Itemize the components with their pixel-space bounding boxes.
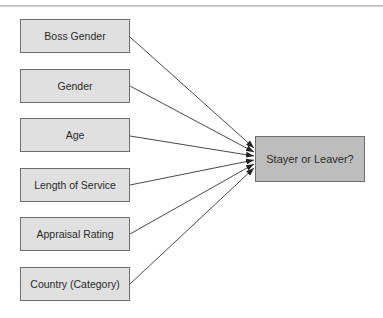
node-age: Age <box>20 118 130 152</box>
edge-country <box>130 168 254 284</box>
node-label: Country (Category) <box>30 278 119 290</box>
edge-gender <box>130 86 254 152</box>
node-label: Length of Service <box>34 179 116 191</box>
node-stayer-or-leaver: Stayer or Leaver? <box>255 136 365 182</box>
node-label: Boss Gender <box>44 30 105 42</box>
node-label: Gender <box>57 80 92 92</box>
node-label: Appraisal Rating <box>36 228 113 240</box>
edge-boss-gender <box>130 37 254 148</box>
node-country: Country (Category) <box>20 267 130 301</box>
node-gender: Gender <box>20 69 130 103</box>
node-boss-gender: Boss Gender <box>20 19 130 53</box>
node-length-of-service: Length of Service <box>20 168 130 202</box>
node-label: Age <box>66 129 85 141</box>
edge-age <box>130 136 254 156</box>
edge-appraisal-rating <box>130 164 254 234</box>
node-label: Stayer or Leaver? <box>266 153 353 165</box>
edge-length-of-service <box>130 160 254 185</box>
node-appraisal-rating: Appraisal Rating <box>20 217 130 251</box>
